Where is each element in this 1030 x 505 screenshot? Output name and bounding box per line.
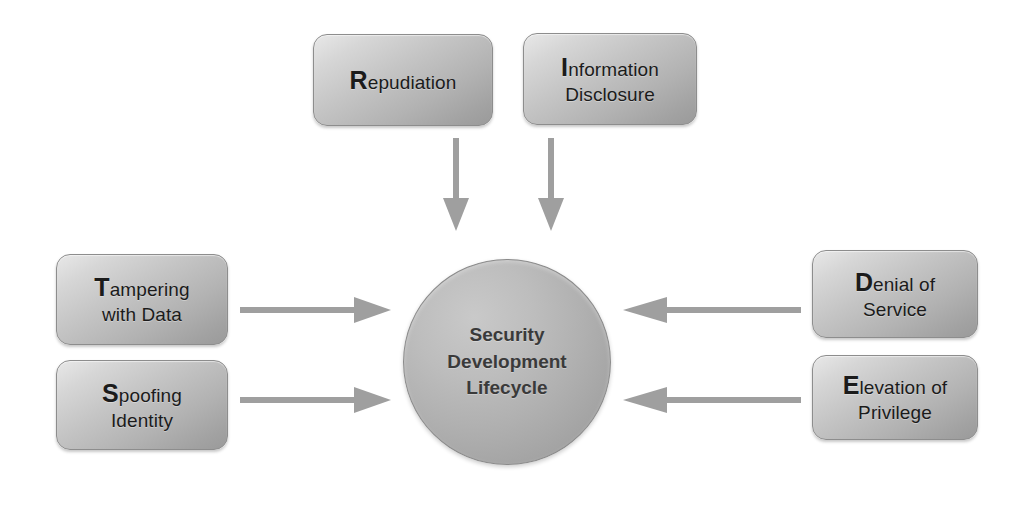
sdl-center-circle[interactable]: Security Development Lifecycle (403, 259, 611, 465)
threat-box-tampering-label: Tampering with Data (88, 271, 195, 327)
threat-rest-spoofing: poofing (119, 385, 182, 406)
arrow-denial-of-service-to-sdl (623, 297, 801, 323)
threat-rest-elevation: levation of (860, 377, 948, 398)
threat-line2-disclosure: Disclosure (565, 84, 655, 105)
threat-initial-s: S (102, 379, 119, 407)
threat-line2-service: Service (863, 299, 927, 320)
threat-initial-d: D (855, 268, 873, 296)
sdl-line-2: Development (447, 351, 566, 372)
sdl-line-1: Security (470, 324, 545, 345)
arrow-spoofing-to-sdl (240, 387, 392, 413)
threat-rest-tampering: ampering (110, 279, 190, 300)
arrow-tampering-to-sdl (240, 297, 392, 323)
threat-rest-denial: enial of (873, 274, 935, 295)
stride-sdl-diagram: Repudiation Information Disclosure Tampe… (0, 0, 1030, 505)
threat-line2-privilege: Privilege (858, 402, 932, 423)
threat-box-tampering-with-data[interactable]: Tampering with Data (56, 254, 228, 345)
threat-line2-with-data: with Data (102, 304, 182, 325)
arrow-repudiation-to-sdl (443, 138, 469, 232)
threat-initial-e: E (843, 371, 860, 399)
threat-box-repudiation[interactable]: Repudiation (313, 34, 493, 126)
threat-rest-repudiation: epudiation (368, 72, 457, 93)
threat-box-elevation-label: Elevation of Privilege (837, 369, 954, 425)
threat-box-spoofing-identity[interactable]: Spoofing Identity (56, 360, 228, 450)
threat-box-elevation-of-privilege[interactable]: Elevation of Privilege (812, 355, 978, 440)
threat-box-information-disclosure[interactable]: Information Disclosure (523, 33, 697, 125)
threat-rest-information: nformation (568, 59, 659, 80)
threat-box-information-disclosure-label: Information Disclosure (555, 51, 665, 107)
threat-initial-r: R (350, 66, 368, 94)
threat-box-denial-label: Denial of Service (849, 266, 941, 322)
arrow-information-disclosure-to-sdl (538, 138, 564, 232)
threat-line2-identity: Identity (111, 410, 173, 431)
threat-initial-t: T (94, 273, 109, 301)
arrow-elevation-of-privilege-to-sdl (623, 387, 801, 413)
sdl-line-3: Lifecycle (466, 377, 547, 398)
sdl-center-label: Security Development Lifecycle (447, 322, 566, 403)
threat-box-repudiation-label: Repudiation (344, 64, 463, 96)
threat-box-spoofing-label: Spoofing Identity (96, 377, 188, 433)
threat-box-denial-of-service[interactable]: Denial of Service (812, 250, 978, 338)
